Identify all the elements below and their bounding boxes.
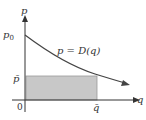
q-bar-label: q̄: [93, 102, 99, 113]
diagram-svg: p q 0 p0 p = D(q) p̄ q̄: [0, 0, 146, 120]
p-bar-label: p̄: [13, 73, 20, 84]
curve-arrow-icon: [121, 80, 130, 86]
p0-label: p0: [3, 29, 14, 42]
demand-curve-diagram: p q 0 p0 p = D(q) p̄ q̄: [0, 0, 146, 120]
shaded-rectangle: [26, 76, 97, 100]
x-axis-label: q: [137, 94, 143, 105]
y-axis-arrow-icon: [22, 15, 28, 22]
origin-label: 0: [17, 102, 23, 112]
curve-label: p = D(q): [57, 45, 100, 56]
y-axis-label: p: [21, 5, 28, 16]
